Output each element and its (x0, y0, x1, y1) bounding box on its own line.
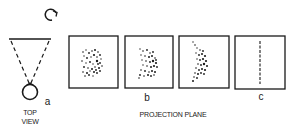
projection-plane-caption: PROJECTION PLANE (128, 110, 218, 119)
label-c: c (256, 91, 266, 102)
top-view-caption-line2: VIEW (16, 117, 44, 126)
top-view-viewer-icon (9, 39, 51, 100)
rotation-arrow-icon (45, 9, 57, 20)
projection-panel-1 (69, 36, 118, 88)
label-a: a (43, 96, 52, 107)
label-b: b (142, 92, 152, 103)
projection-panel-4 (235, 36, 285, 89)
projection-panel-3 (179, 36, 229, 88)
top-view-caption-line1: TOP (18, 108, 42, 117)
projection-panel-2 (125, 36, 173, 88)
